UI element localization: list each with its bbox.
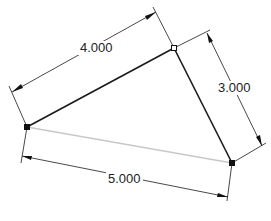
extension-line-c-ac — [227, 163, 232, 201]
dimension-label-bc[interactable]: 3.000 — [216, 81, 253, 95]
extension-line-b-bc — [174, 30, 210, 48]
vertex-a-point-icon[interactable] — [24, 124, 30, 130]
arrowhead-icon — [207, 33, 213, 43]
edge-ac-construction[interactable] — [27, 127, 232, 163]
arrowhead-icon — [145, 12, 156, 20]
arrowhead-icon — [217, 193, 228, 197]
arrowhead-icon — [22, 156, 32, 160]
extension-line-b-ab — [153, 7, 174, 48]
dimension-label-ab[interactable]: 4.000 — [78, 41, 115, 55]
dimension-label-ac[interactable]: 5.000 — [106, 172, 143, 186]
dimension-arrows — [12, 12, 262, 197]
arrowhead-icon — [256, 135, 262, 146]
vertex-c-point-icon[interactable] — [229, 160, 235, 166]
extension-line-c-bc — [232, 143, 266, 163]
dimension-lines — [12, 12, 262, 197]
arrowhead-icon — [12, 84, 23, 92]
extension-line-a-ab — [9, 86, 27, 127]
edge-ab[interactable] — [27, 48, 174, 127]
edge-bc[interactable] — [174, 48, 232, 163]
vertex-b-point-icon[interactable] — [172, 46, 177, 51]
sketch-canvas[interactable] — [0, 0, 271, 221]
